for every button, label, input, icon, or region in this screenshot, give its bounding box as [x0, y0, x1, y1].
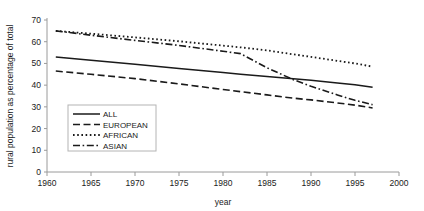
x-tick-label: 1965 [82, 178, 101, 188]
y-axis-title: rural population as percentage of total [5, 25, 15, 168]
x-axis-title: year [215, 197, 232, 207]
x-tick-label: 1975 [170, 178, 189, 188]
series-line-european [56, 71, 373, 108]
series-lines [56, 31, 373, 108]
line-chart: 010203040506070 196019651970197519801985… [0, 0, 424, 211]
y-tick-label: 10 [32, 145, 42, 155]
legend-label-all: ALL [103, 110, 118, 119]
y-tick-label: 50 [32, 58, 42, 68]
series-line-asian [56, 31, 373, 105]
x-tick-label: 2000 [390, 178, 409, 188]
series-line-all [56, 57, 373, 87]
x-tick-label: 1960 [38, 178, 57, 188]
y-tick-label: 0 [36, 167, 41, 177]
legend-label-asian: ASIAN [103, 142, 127, 151]
x-tick-label: 1980 [214, 178, 233, 188]
x-tick-label: 1990 [302, 178, 321, 188]
chart-container: 010203040506070 196019651970197519801985… [0, 0, 424, 211]
y-tick-label: 60 [32, 37, 42, 47]
y-tick-label: 70 [32, 15, 42, 25]
x-axis: 196019651970197519801985199019952000 [38, 172, 409, 188]
legend-label-african: AFRICAN [103, 131, 138, 140]
y-tick-label: 30 [32, 102, 42, 112]
y-axis: 010203040506070 [32, 15, 47, 177]
y-tick-label: 20 [32, 124, 42, 134]
x-tick-label: 1995 [346, 178, 365, 188]
x-tick-label: 1970 [126, 178, 145, 188]
x-tick-label: 1985 [258, 178, 277, 188]
legend-label-european: EUROPEAN [103, 121, 148, 130]
y-tick-label: 40 [32, 80, 42, 90]
chart-legend: ALLEUROPEANAFRICANASIAN [68, 105, 156, 151]
